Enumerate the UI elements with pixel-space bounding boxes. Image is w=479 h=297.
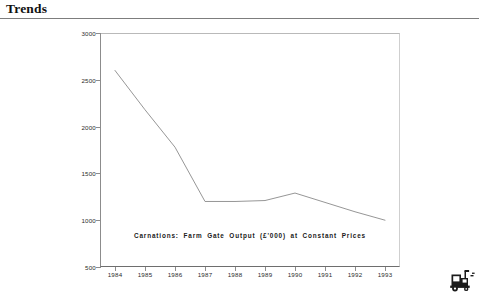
chart-caption: Carnations: Farm Gate Output (£'000) at … xyxy=(134,232,366,239)
title-divider xyxy=(0,18,479,19)
tractor-icon xyxy=(448,266,478,294)
data-series-line xyxy=(0,20,479,297)
page-title: Trends xyxy=(6,1,47,17)
trends-line-chart: 50010001500200025003000 1984198519861987… xyxy=(0,20,479,297)
